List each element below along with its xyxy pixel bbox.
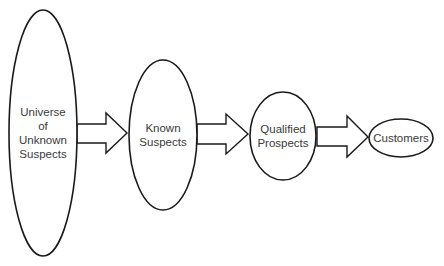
stage-ellipse-customers — [369, 119, 433, 157]
stage-ellipse-known-suspects — [129, 60, 197, 210]
arrow-right-icon — [317, 116, 368, 157]
arrows-layer — [77, 113, 368, 157]
stage-ellipse-universe — [9, 10, 77, 256]
stage-ellipse-qualified-prospects — [250, 92, 316, 180]
arrow-right-icon — [77, 113, 127, 153]
arrow-right-icon — [197, 114, 248, 154]
funnel-diagram — [0, 0, 444, 266]
